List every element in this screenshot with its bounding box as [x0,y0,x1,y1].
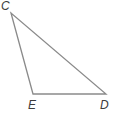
vertex-label-e: E [28,99,36,111]
vertex-label-d: D [100,99,109,111]
triangle-outline [11,13,106,94]
triangle-figure: C E D [0,0,119,121]
vertex-label-c: C [1,0,10,12]
